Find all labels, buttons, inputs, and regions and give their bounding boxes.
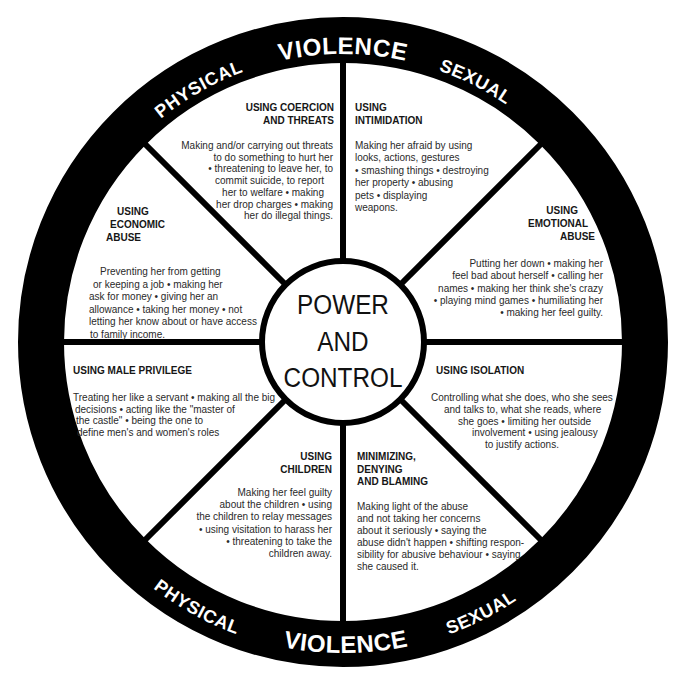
center-title: POWER AND CONTROL <box>263 287 423 397</box>
heading-line: EMOTIONAL <box>528 217 588 230</box>
body-line: her to welfare • making <box>181 187 324 199</box>
body-line: the children to relay messages <box>196 511 332 523</box>
body-line: her drop charges • making <box>181 199 333 211</box>
body-line: • smashing things • destroying <box>355 165 489 177</box>
body-line: pets • displaying <box>355 190 489 202</box>
heading-line: USING <box>117 205 165 218</box>
body-line: Making her afraid by using <box>355 140 489 152</box>
heading-line: USING ISOLATION <box>436 365 524 378</box>
heading-line: AND BLAMING <box>357 476 428 489</box>
body-line: ask for money • giving her an <box>89 291 257 304</box>
heading-line: USING MALE PRIVILEGE <box>73 365 192 378</box>
body-line: her do illegal things. <box>181 210 333 222</box>
heading-line: CHILDREN <box>280 463 332 476</box>
body-line: decisions • acting like the "master of <box>75 404 275 416</box>
body-line: letting her know about or have access <box>89 316 257 329</box>
heading-line: ABUSE <box>106 231 165 244</box>
body-line: Treating her like a servant • making all… <box>73 392 275 404</box>
body-line: she goes • limiting her outside <box>458 416 613 428</box>
body-line: to justify actions. <box>485 439 613 451</box>
body-line: • playing mind games • humiliating her <box>434 295 603 307</box>
body-line: children away. <box>196 548 332 560</box>
body-line: • threatening to leave her, to <box>181 163 333 175</box>
body-line: and talks to, what she reads, where <box>444 404 613 416</box>
heading-line: ABUSE <box>528 230 595 243</box>
center-title-line: AND <box>271 324 415 361</box>
body-line: Controlling what she does, who she sees <box>431 392 613 404</box>
power-control-wheel: PHYSICAL VIOLENCE SEXUAL PHYSICAL VIOLEN… <box>0 0 679 682</box>
section-body-male-privilege: Treating her like a servant • making all… <box>73 392 275 439</box>
body-line: Putting her down • making her <box>434 258 603 270</box>
center-title-line: CONTROL <box>271 360 415 397</box>
body-line: the castle" • being the one to <box>76 415 275 427</box>
body-line: allowance • taking her money • not <box>89 304 257 317</box>
body-line: • using visitation to harass her <box>196 524 332 536</box>
heading-line: USING <box>355 102 423 115</box>
section-body-minimizing: Making light of the abuse and not taking… <box>357 501 524 573</box>
center-title-line: POWER <box>271 287 415 324</box>
section-heading-intimidation: USING INTIMIDATION <box>355 102 423 127</box>
section-heading-children: USING CHILDREN <box>280 450 332 476</box>
section-body-coercion: Making and/or carrying out threats to do… <box>181 140 333 222</box>
body-line: she caused it. <box>357 561 524 573</box>
body-line: Making her feel guilty <box>196 487 332 499</box>
body-line: about it seriously • saying the <box>357 525 524 537</box>
body-line: • making her feel guilty. <box>434 307 603 319</box>
section-body-isolation: Controlling what she does, who she sees … <box>431 392 613 451</box>
heading-line: USING COERCION <box>246 102 334 115</box>
body-line: sibility for abusive behaviour • saying <box>357 549 524 561</box>
heading-line: ECONOMIC <box>110 218 165 231</box>
body-line: weapons. <box>355 202 489 214</box>
body-line: names • making her think she's crazy <box>434 283 603 295</box>
body-line: Making and/or carrying out threats <box>181 140 333 152</box>
heading-line: USING <box>280 450 332 463</box>
section-heading-minimizing: MINIMIZING, DENYING AND BLAMING <box>357 451 428 489</box>
section-body-intimidation: Making her afraid by using looks, action… <box>355 140 489 214</box>
body-line: Making light of the abuse <box>357 501 524 513</box>
section-body-emotional: Putting her down • making her feel bad a… <box>434 258 603 319</box>
body-line: to family income. <box>90 329 257 342</box>
body-line: looks, actions, gestures <box>355 152 489 164</box>
body-line: her property • abusing <box>355 177 489 189</box>
body-line: Preventing her from getting <box>100 266 257 279</box>
section-heading-economic: USING ECONOMIC ABUSE <box>106 205 165 244</box>
body-line: to do something to hurt her <box>181 152 333 164</box>
heading-line: MINIMIZING, <box>357 451 428 464</box>
heading-line: INTIMIDATION <box>355 115 423 128</box>
body-line: involvement • using jealousy <box>472 427 613 439</box>
body-line: abuse didn't happen • shifting respon- <box>357 537 524 549</box>
body-line: define men's and women's roles <box>77 427 275 439</box>
section-heading-male-privilege: USING MALE PRIVILEGE <box>73 365 192 378</box>
body-line: feel bad about herself • calling her <box>434 270 603 282</box>
section-heading-coercion: USING COERCION AND THREATS <box>246 102 334 127</box>
heading-line: AND THREATS <box>246 115 334 128</box>
heading-line: DENYING <box>357 464 428 477</box>
body-line: or keeping a job • making her <box>93 279 257 292</box>
body-line: • threatening to take the <box>196 536 332 548</box>
section-heading-isolation: USING ISOLATION <box>436 365 524 378</box>
body-line: commit suicide, to report <box>181 175 324 187</box>
heading-line: USING <box>528 204 578 217</box>
body-line: about the children • using <box>196 499 332 511</box>
section-heading-emotional: USING EMOTIONAL ABUSE <box>528 204 595 243</box>
section-body-economic: Preventing her from getting or keeping a… <box>89 266 257 342</box>
section-body-children: Making her feel guilty about the childre… <box>196 487 332 560</box>
body-line: and not taking her concerns <box>357 513 524 525</box>
